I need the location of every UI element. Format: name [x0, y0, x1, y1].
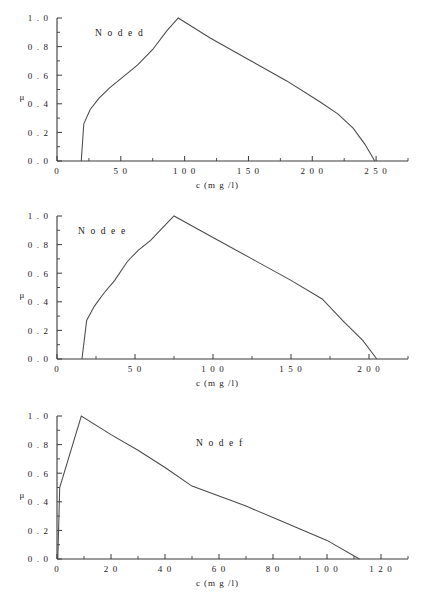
y-tick-label: 0 . 4 [28, 497, 49, 507]
x-tick-label: 0 [54, 364, 60, 374]
y-axis-title: μ [20, 92, 25, 102]
y-tick-label: 1 . 0 [28, 411, 49, 421]
x-tick-label: 2 0 [104, 564, 119, 574]
y-tick-label: 0 . 0 [28, 554, 49, 564]
x-tick-label: 2 0 0 [357, 364, 381, 374]
y-tick-label: 0 . 6 [28, 269, 49, 279]
x-tick-label: 1 0 0 [173, 166, 197, 176]
y-tick-label: 0 . 0 [28, 156, 49, 166]
y-tick-label: 1 . 0 [28, 211, 49, 221]
chart-panel-node-d: 05 01 0 01 5 02 0 02 5 00 . 00 . 20 . 40… [0, 0, 422, 198]
x-tick-label: 2 5 0 [364, 166, 388, 176]
x-tick-label: 1 5 0 [237, 166, 261, 176]
y-tick-label: 0 . 2 [28, 326, 49, 336]
x-tick-label: 4 0 [158, 564, 173, 574]
x-tick-label: 0 [54, 166, 60, 176]
x-tick-label: 1 0 0 [315, 564, 339, 574]
x-axis-title: c (m g /l) [196, 578, 239, 588]
y-tick-label: 0 . 4 [28, 99, 49, 109]
x-tick-label: 1 2 0 [369, 564, 393, 574]
data-series-line [81, 18, 375, 161]
x-tick-label: 5 0 [114, 166, 129, 176]
x-axis-title: c (m g /l) [196, 378, 239, 388]
x-tick-label: 6 0 [212, 564, 227, 574]
y-axis-title: μ [20, 290, 25, 300]
x-axis-title: c (m g /l) [196, 180, 239, 190]
y-tick-label: 0 . 4 [28, 297, 49, 307]
y-tick-label: 0 . 8 [28, 440, 49, 450]
x-tick-label: 1 5 0 [279, 364, 303, 374]
chart-panel-node-e: 05 01 0 01 5 02 0 00 . 00 . 20 . 40 . 60… [0, 198, 422, 396]
x-tick-label: 2 0 0 [301, 166, 325, 176]
y-tick-label: 0 . 8 [28, 42, 49, 52]
y-tick-label: 0 . 6 [28, 469, 49, 479]
x-tick-label: 1 0 0 [201, 364, 225, 374]
data-series-line [82, 216, 377, 359]
chart-svg: 05 01 0 01 5 02 0 02 5 00 . 00 . 20 . 40… [0, 0, 422, 198]
series-label: N o d e d [95, 28, 144, 38]
y-tick-label: 0 . 2 [28, 128, 49, 138]
y-tick-label: 0 . 2 [28, 526, 49, 536]
y-tick-label: 1 . 0 [28, 13, 49, 23]
y-tick-label: 0 . 6 [28, 71, 49, 81]
x-tick-label: 5 0 [128, 364, 143, 374]
chart-panel-node-f: 02 04 06 08 01 0 01 2 00 . 00 . 20 . 40 … [0, 396, 422, 596]
x-tick-label: 0 [54, 564, 60, 574]
y-axis-title: μ [20, 490, 25, 500]
series-label: N o d e f [196, 438, 244, 448]
y-tick-label: 0 . 0 [28, 354, 49, 364]
chart-svg: 02 04 06 08 01 0 01 2 00 . 00 . 20 . 40 … [0, 396, 422, 596]
y-tick-label: 0 . 8 [28, 240, 49, 250]
chart-svg: 05 01 0 01 5 02 0 00 . 00 . 20 . 40 . 60… [0, 198, 422, 396]
x-tick-label: 8 0 [266, 564, 281, 574]
series-label: N o d e e [78, 226, 127, 236]
